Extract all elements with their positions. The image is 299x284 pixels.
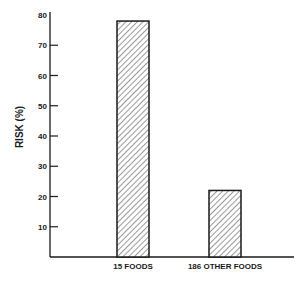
bar [209, 190, 241, 257]
category-labels: 15 FOODS186 OTHER FOODS [113, 262, 263, 271]
bar [117, 21, 149, 257]
y-tick-label: 60 [38, 72, 47, 81]
x-category-label: 15 FOODS [113, 262, 153, 271]
y-axis-title: RISK (%) [14, 106, 25, 148]
bar-chart: 1020304050607080 15 FOODS186 OTHER FOODS… [0, 0, 299, 284]
y-tick-label: 10 [38, 223, 47, 232]
y-tick-label: 40 [38, 132, 47, 141]
y-tick-label: 70 [38, 41, 47, 50]
y-tick-label: 30 [38, 162, 47, 171]
y-tick-label: 50 [38, 102, 47, 111]
y-axis: 1020304050607080 [38, 11, 58, 257]
y-tick-label: 80 [38, 11, 47, 20]
bars [117, 21, 241, 257]
x-category-label: 186 OTHER FOODS [188, 262, 263, 271]
y-tick-label: 20 [38, 193, 47, 202]
